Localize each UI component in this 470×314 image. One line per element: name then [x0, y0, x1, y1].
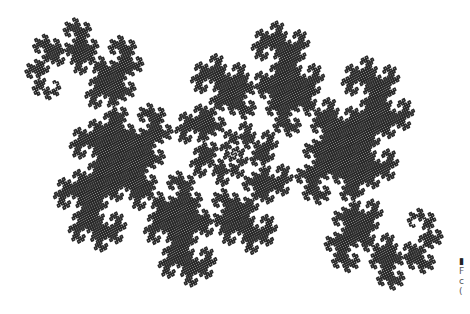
caption-line-3: c: [459, 276, 470, 286]
dragon-curve-fractal: [25, 18, 443, 290]
clipped-caption: ▮ F c (: [459, 256, 470, 300]
dragon-curve-half-1: [25, 18, 293, 287]
caption-line-2: F: [459, 266, 470, 276]
dragon-curve-half-2: [175, 21, 443, 290]
caption-line-4: (: [459, 286, 470, 296]
caption-line-1: ▮: [459, 256, 470, 266]
fractal-figure: [0, 0, 470, 314]
